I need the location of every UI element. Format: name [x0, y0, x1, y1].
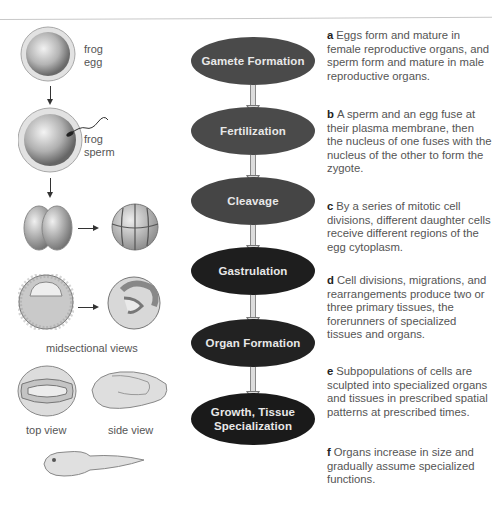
description-f: fOrgans increase in size and gradually a…	[327, 446, 492, 487]
frog-sperm-label-line2: sperm	[84, 146, 115, 159]
midsectional-views-caption: midsectional views	[46, 342, 138, 355]
stage-label: Gastrulation	[219, 264, 288, 278]
stage-label-line1: Growth, Tissue	[211, 405, 295, 419]
description-text: By a series of mitotic cell divisions, d…	[327, 200, 491, 253]
description-d: dCell divisions, migrations, and rearran…	[327, 274, 492, 342]
description-letter: b	[327, 108, 334, 120]
flow-arrow-shaft	[250, 85, 256, 107]
arrow-down-icon	[50, 178, 51, 194]
arrow-right-icon	[78, 307, 94, 308]
arrow-right-icon	[78, 228, 94, 229]
header-rule	[0, 17, 492, 20]
flow-arrow-shaft	[250, 367, 256, 393]
stage-label-line2: Specialization	[214, 419, 292, 433]
stage-label: Cleavage	[227, 194, 278, 208]
description-text: Eggs form and mature in female reproduct…	[327, 29, 489, 82]
tadpole-image	[40, 444, 146, 480]
stage-growth-tissue-specialization: Growth, Tissue Specialization	[191, 393, 315, 445]
description-b: bA sperm and an egg fuse at their plasma…	[327, 108, 492, 176]
stage-organ-formation: Organ Formation	[191, 319, 315, 367]
description-letter: d	[327, 274, 334, 286]
flow-arrow-shaft	[250, 155, 256, 177]
description-letter: f	[327, 446, 331, 458]
description-text: Organs increase in size and gradually as…	[327, 446, 475, 485]
flow-arrow-shaft	[250, 225, 256, 247]
arrow-down-icon	[50, 86, 51, 101]
frog-egg-image	[20, 26, 76, 82]
description-a: aEggs form and mature in female reproduc…	[327, 29, 492, 83]
frog-sperm-label: frog sperm	[84, 133, 115, 159]
frog-egg-label-line1: frog	[84, 43, 103, 56]
multicell-embryo-image	[110, 202, 160, 252]
neurula-side-view-image	[88, 368, 170, 412]
description-letter: c	[327, 200, 333, 212]
stage-gastrulation: Gastrulation	[191, 247, 315, 295]
description-c: cBy a series of mitotic cell divisions, …	[327, 200, 492, 254]
frog-egg-label-line2: egg	[84, 56, 103, 69]
stage-fertilization: Fertilization	[191, 107, 315, 155]
stage-gamete-formation: Gamete Formation	[191, 37, 315, 85]
stage-label: Gamete Formation	[201, 54, 304, 68]
description-text: Subpopulations of cells are sculpted int…	[327, 365, 488, 418]
description-letter: a	[327, 29, 333, 41]
description-text: Cell divisions, migrations, and rearrang…	[327, 274, 486, 340]
top-view-caption: top view	[26, 424, 66, 437]
stage-label: Organ Formation	[206, 336, 301, 350]
two-cell-embryo-image	[22, 204, 74, 252]
flow-arrow-shaft	[250, 295, 256, 319]
description-letter: e	[327, 365, 333, 377]
gastrula-midsection-image	[106, 274, 164, 332]
description-e: eSubpopulations of cells are sculpted in…	[327, 365, 492, 419]
side-view-caption: side view	[108, 424, 153, 437]
frog-sperm-label-line1: frog	[84, 133, 115, 146]
stage-cleavage: Cleavage	[191, 177, 315, 225]
frog-egg-label: frog egg	[84, 43, 103, 69]
stage-label: Fertilization	[220, 124, 286, 138]
blastula-midsection-image	[18, 274, 74, 330]
neurula-top-view-image	[16, 364, 78, 418]
description-text: A sperm and an egg fuse at their plasma …	[327, 108, 492, 174]
